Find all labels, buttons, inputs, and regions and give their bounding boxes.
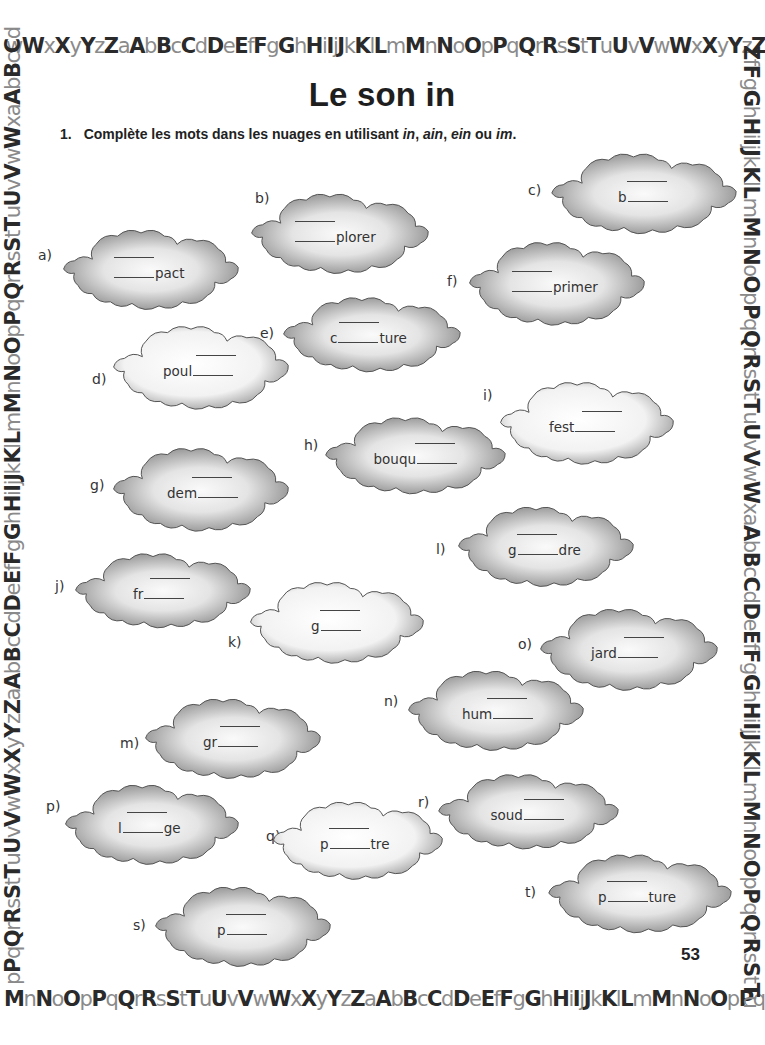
answer-blank[interactable] — [123, 831, 163, 833]
answer-line[interactable] — [150, 578, 190, 579]
word-to-complete: p — [217, 922, 268, 938]
exercise-instruction: 1.Complète les mots dans les nuages en u… — [60, 126, 516, 142]
answer-blank[interactable] — [417, 462, 457, 464]
answer-line[interactable] — [339, 322, 379, 323]
answer-line[interactable] — [114, 257, 154, 258]
word-to-complete: jard — [591, 645, 659, 661]
word-to-complete: dem — [167, 485, 239, 501]
answer-blank[interactable] — [321, 629, 361, 631]
answer-line[interactable] — [320, 610, 360, 611]
word-suffix: dre — [559, 542, 581, 558]
item-label: t) — [525, 884, 536, 900]
answer-line[interactable] — [196, 355, 236, 356]
word-suffix: ge — [164, 820, 181, 836]
answer-blank[interactable] — [330, 847, 370, 849]
word-to-complete: hum — [462, 706, 534, 722]
answer-blank[interactable] — [114, 276, 154, 278]
item-label: s) — [133, 917, 146, 933]
word-suffix: plorer — [336, 229, 376, 245]
item-label: i) — [483, 387, 492, 403]
answer-line[interactable] — [487, 698, 527, 699]
answer-blank[interactable] — [193, 374, 233, 376]
word-prefix: jard — [591, 645, 617, 661]
item-label: n) — [384, 693, 398, 709]
answer-line[interactable] — [415, 443, 455, 444]
word-prefix: fr — [133, 586, 143, 602]
answer-blank[interactable] — [493, 717, 533, 719]
item-label: d) — [92, 371, 106, 387]
item-label: l) — [436, 541, 445, 557]
word-prefix: bouqu — [374, 451, 417, 467]
alphabet-border-top: wWxXyYzZaAbBcCdDeEfFgGhHiIjJkKlLmMnNoOpP… — [6, 36, 765, 57]
answer-blank[interactable] — [618, 656, 658, 658]
answer-blank[interactable] — [338, 341, 378, 343]
word-prefix: p — [598, 889, 607, 905]
item-label: p) — [46, 798, 60, 814]
answer-line[interactable] — [517, 534, 557, 535]
word-to-complete: gr — [203, 734, 259, 750]
word-to-complete: lge — [118, 820, 181, 836]
item-label: o) — [518, 636, 532, 652]
answer-line[interactable] — [582, 411, 622, 412]
word-prefix: p — [217, 922, 226, 938]
word-prefix: p — [320, 836, 329, 852]
answer-blank[interactable] — [512, 290, 552, 292]
answer-line[interactable] — [627, 181, 667, 182]
answer-blank[interactable] — [524, 818, 564, 820]
answer-line[interactable] — [192, 477, 232, 478]
answer-blank[interactable] — [198, 496, 238, 498]
answer-line[interactable] — [512, 271, 552, 272]
word-suffix: ture — [379, 330, 406, 346]
answer-line[interactable] — [226, 914, 266, 915]
answer-blank[interactable] — [295, 240, 335, 242]
item-label: h) — [304, 437, 318, 453]
word-prefix: b — [618, 189, 627, 205]
word-to-complete: pact — [113, 265, 185, 281]
word-to-complete: plorer — [294, 229, 376, 245]
word-prefix: g — [508, 542, 517, 558]
alphabet-border-left: pPqQrRsStTuUvVwWxXyYzZaAbBcCdDeEfFgGhHiI… — [3, 27, 24, 985]
option-in: in — [403, 126, 415, 142]
answer-blank[interactable] — [518, 553, 558, 555]
answer-blank[interactable] — [144, 597, 184, 599]
word-to-complete: bouqu — [374, 451, 459, 467]
word-prefix: soud — [491, 807, 523, 823]
word-prefix: hum — [462, 706, 492, 722]
answer-blank[interactable] — [227, 933, 267, 935]
word-suffix: pact — [155, 265, 185, 281]
word-to-complete: gdre — [508, 542, 581, 558]
word-prefix: l — [118, 820, 122, 836]
item-label: f) — [447, 273, 457, 289]
item-label: c) — [528, 182, 541, 198]
word-suffix: primer — [553, 279, 598, 295]
word-to-complete: soud — [491, 807, 565, 823]
answer-blank[interactable] — [608, 900, 648, 902]
word-to-complete: primer — [511, 279, 598, 295]
answer-line[interactable] — [607, 881, 647, 882]
answer-line[interactable] — [295, 221, 335, 222]
item-label: r) — [418, 794, 429, 810]
exercise-number: 1. — [60, 126, 72, 142]
word-to-complete: fest — [549, 419, 616, 435]
item-label: a) — [38, 247, 52, 263]
option-ain: ain — [423, 126, 443, 142]
word-prefix: dem — [167, 485, 197, 501]
answer-blank[interactable] — [218, 745, 258, 747]
alphabet-border-bottom: MnNoOpPqQrRsStTuUvVwWxXyYzZaAbBcCdDeEfFg… — [4, 989, 765, 1010]
item-label: e) — [260, 325, 274, 341]
item-label: g) — [90, 477, 104, 493]
answer-line[interactable] — [220, 726, 260, 727]
page-title: Le son in — [0, 76, 764, 114]
answer-blank[interactable] — [628, 200, 668, 202]
answer-line[interactable] — [524, 799, 564, 800]
answer-blank[interactable] — [575, 430, 615, 432]
word-prefix: gr — [203, 734, 217, 750]
word-suffix: ture — [649, 889, 676, 905]
word-to-complete: g — [311, 618, 362, 634]
option-im: im — [496, 126, 512, 142]
page-number: 53 — [681, 945, 700, 965]
answer-line[interactable] — [624, 637, 664, 638]
word-suffix: tre — [371, 836, 390, 852]
answer-line[interactable] — [329, 828, 369, 829]
answer-line[interactable] — [127, 812, 167, 813]
